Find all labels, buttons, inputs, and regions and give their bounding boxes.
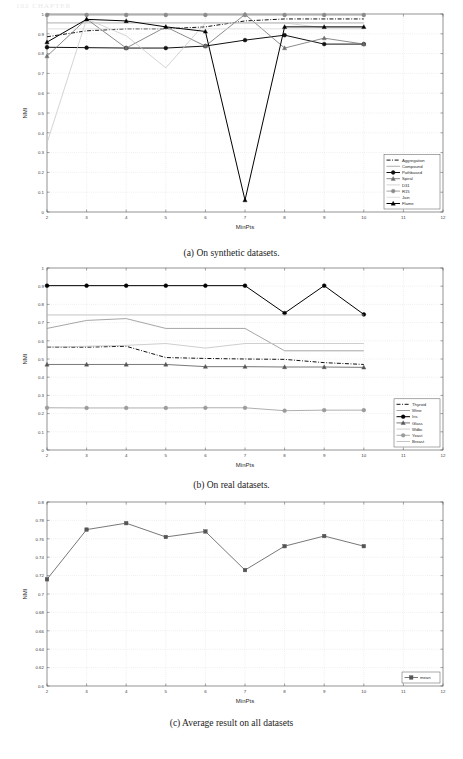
legend-label-pathbased: Pathbased xyxy=(402,170,423,175)
legend-label-spiral: Spiral xyxy=(402,176,413,181)
y-tick-label: 1 xyxy=(42,12,45,17)
y-axis-label: NMI xyxy=(22,353,28,364)
legend-label-iris: Iris xyxy=(412,414,418,419)
data-point-r15 xyxy=(124,13,128,17)
data-point-r15 xyxy=(204,13,208,17)
y-tick-label: 0.2 xyxy=(38,170,45,175)
x-tick-label: 11 xyxy=(401,453,406,458)
y-tick-label: 1 xyxy=(42,266,45,271)
x-tick-label: 10 xyxy=(361,689,366,694)
figure-panel-a: 2345678910111200.10.20.30.40.50.60.70.80… xyxy=(0,0,463,258)
data-point-mean xyxy=(243,568,247,572)
data-point-mean xyxy=(45,577,49,581)
y-tick-label: 0.7 xyxy=(38,320,45,325)
data-point-r15 xyxy=(243,13,247,17)
y-tick-label: 0.2 xyxy=(38,411,45,416)
x-tick-label: 11 xyxy=(401,689,406,694)
legend-label-flame: Flame xyxy=(402,201,414,206)
data-point-mean xyxy=(283,544,287,548)
y-tick-label: 0.68 xyxy=(35,610,44,615)
data-point-r15 xyxy=(362,13,366,17)
data-point-mean xyxy=(164,535,168,539)
y-tick-label: 0.74 xyxy=(35,555,44,560)
data-point-r15 xyxy=(164,13,168,17)
chart-svg-a: 2345678910111200.10.20.30.40.50.60.70.80… xyxy=(0,0,463,248)
data-point-mean xyxy=(204,530,208,534)
y-tick-label: 0.9 xyxy=(38,284,45,289)
data-point-mean xyxy=(85,528,89,532)
x-axis-label: MinPts xyxy=(236,224,254,230)
data-point-iris xyxy=(85,284,89,288)
data-point-r15 xyxy=(322,13,326,17)
x-tick-label: 4 xyxy=(125,689,128,694)
data-point-pathbased xyxy=(45,45,49,49)
data-point-yeast xyxy=(362,408,366,412)
data-point-yeast xyxy=(322,408,326,412)
x-tick-label: 6 xyxy=(204,215,207,220)
x-tick-label: 9 xyxy=(323,689,326,694)
legend-label-breast: Breast xyxy=(412,439,425,444)
legend-label-glass: Glass xyxy=(412,421,423,426)
data-point-iris xyxy=(362,313,366,317)
x-tick-label: 3 xyxy=(85,689,88,694)
figure-panel-b: 2345678910111200.10.20.30.40.50.60.70.80… xyxy=(0,258,463,490)
data-point-yeast xyxy=(45,406,49,410)
legend-label-yeast: Yeast xyxy=(412,433,423,438)
y-tick-label: 0.64 xyxy=(35,647,44,652)
legend-label-thyroid: Thyroid xyxy=(412,402,427,407)
data-point-r15 xyxy=(45,13,49,17)
data-point-yeast xyxy=(243,406,247,410)
legend-label-wdbc: Wdbc xyxy=(412,427,423,432)
x-tick-label: 8 xyxy=(283,453,286,458)
x-tick-label: 6 xyxy=(204,453,207,458)
y-tick-label: 0.4 xyxy=(38,131,45,136)
caption-b: (b) On real datasets. xyxy=(0,480,463,490)
plot-c: 234567891011120.60.620.640.660.680.70.72… xyxy=(0,490,463,718)
x-tick-label: 3 xyxy=(85,215,88,220)
y-tick-label: 0.6 xyxy=(38,339,45,344)
y-tick-label: 0.66 xyxy=(35,629,44,634)
y-tick-label: 0 xyxy=(42,448,45,453)
data-point-yeast xyxy=(124,406,128,410)
y-tick-label: 0.1 xyxy=(38,430,45,435)
data-point-mean xyxy=(124,521,128,525)
data-point-iris xyxy=(45,284,49,288)
data-point-iris xyxy=(243,284,247,288)
data-point-iris xyxy=(164,284,168,288)
legend-marker xyxy=(409,676,413,680)
x-tick-label: 8 xyxy=(283,689,286,694)
y-tick-label: 0 xyxy=(42,210,45,215)
y-tick-label: 0.8 xyxy=(38,51,45,56)
data-point-mean xyxy=(362,544,366,548)
x-tick-label: 10 xyxy=(361,453,366,458)
x-tick-label: 5 xyxy=(165,453,168,458)
data-point-yeast xyxy=(164,406,168,410)
data-point-r15 xyxy=(85,13,89,17)
y-tick-label: 0.8 xyxy=(38,500,45,505)
x-tick-label: 9 xyxy=(323,215,326,220)
y-tick-label: 0.72 xyxy=(35,573,44,578)
caption-a: (a) On synthetic datasets. xyxy=(0,248,463,258)
data-point-iris xyxy=(124,284,128,288)
y-tick-label: 0.62 xyxy=(35,665,44,670)
legend-marker xyxy=(401,415,405,419)
data-point-iris xyxy=(322,284,326,288)
x-tick-label: 7 xyxy=(244,453,247,458)
data-point-pathbased xyxy=(322,42,326,46)
x-tick-label: 7 xyxy=(244,689,247,694)
y-tick-label: 0.4 xyxy=(38,375,45,380)
y-axis-label: NMI xyxy=(22,107,28,118)
legend-label-aggregation: Aggregation xyxy=(402,158,425,163)
y-tick-label: 0.78 xyxy=(35,518,44,523)
data-point-r15 xyxy=(283,13,287,17)
caption-c: (c) Average result on all datasets xyxy=(0,718,463,728)
plot-a: 2345678910111200.10.20.30.40.50.60.70.80… xyxy=(0,0,463,248)
legend-label-wine: Wine xyxy=(412,408,422,413)
x-tick-label: 4 xyxy=(125,453,128,458)
y-tick-label: 0.76 xyxy=(35,537,44,542)
legend-label-d31: D31 xyxy=(402,183,410,188)
y-axis-label: NMI xyxy=(22,588,28,599)
y-tick-label: 0.9 xyxy=(38,32,45,37)
y-tick-label: 0.3 xyxy=(38,150,45,155)
y-tick-label: 0.3 xyxy=(38,393,45,398)
